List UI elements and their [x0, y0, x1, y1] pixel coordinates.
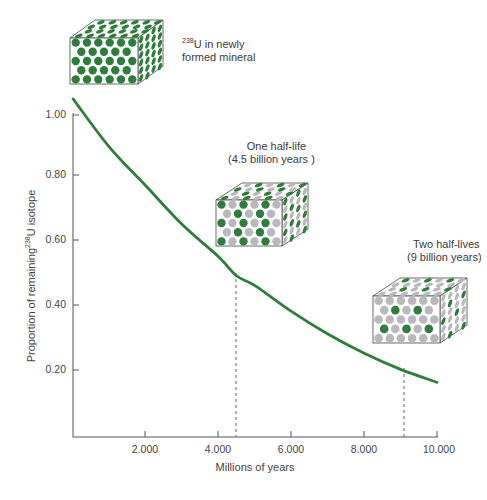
annotation-fresh-mineral: 238U in newly formed mineral — [182, 34, 255, 64]
y-tick-label: 0.80 — [26, 168, 66, 180]
x-tick-label: 6.000 — [266, 443, 316, 455]
y-tick-label: 0.20 — [26, 363, 66, 375]
annotation-two-half-lives: Two half-lives (9 billion years) — [411, 238, 482, 264]
cube-one-half-life — [216, 182, 308, 246]
cube-fresh-mineral — [70, 19, 163, 84]
y-tick-label: 1.00 — [26, 108, 66, 120]
x-tick-label: 8.000 — [339, 443, 389, 455]
x-tick-label: 4.000 — [193, 443, 243, 455]
x-tick-label: 10.000 — [414, 443, 464, 455]
cube-two-half-lives — [373, 277, 467, 343]
y-axis-label: Proportion of remaining238U isotope — [24, 190, 37, 363]
x-tick-label: 2.000 — [120, 443, 170, 455]
x-axis-label: Millions of years — [216, 461, 295, 473]
annotation-one-half-life: One half-life (4.5 billion years ) — [238, 140, 315, 166]
